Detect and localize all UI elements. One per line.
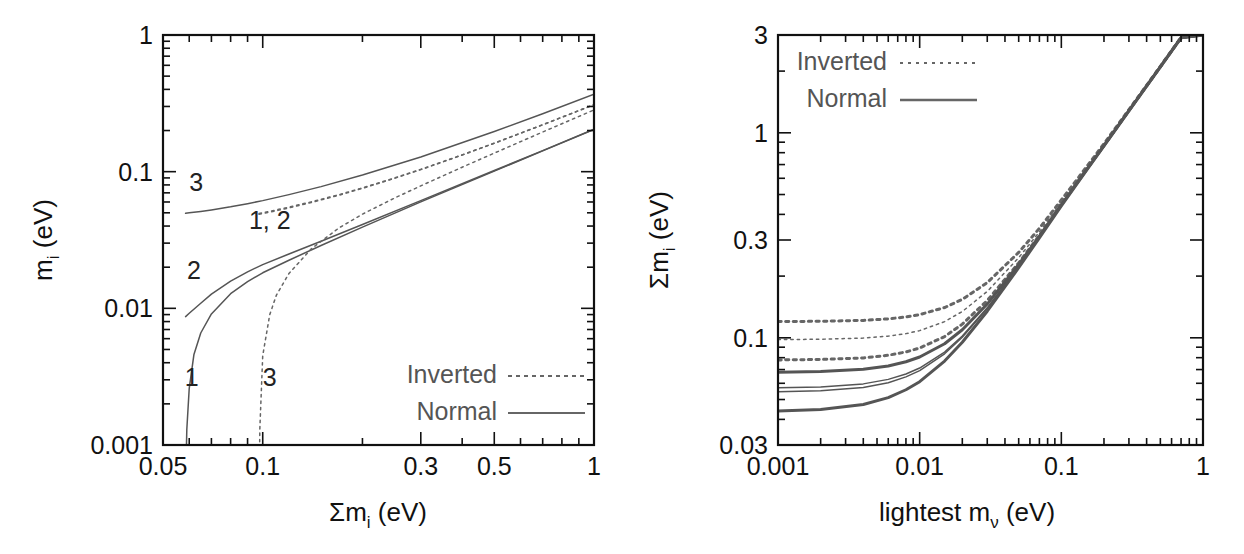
left-x-axis-title-unit: (eV): [371, 497, 427, 527]
right-y-axis-title-main: Σm: [644, 251, 674, 289]
curve-annotation: 1, 2: [249, 206, 291, 234]
curve-annotation: 1: [185, 363, 199, 391]
curve-normal-m2: [186, 129, 594, 316]
right-y-axis-title-unit: (eV): [644, 191, 674, 247]
y-tick-label: 0.3: [733, 226, 768, 254]
right-plot-svg: 0.0010.010.110.030.10.313 Inverted Norma…: [622, 0, 1244, 554]
curve-annotation: 2: [187, 256, 201, 284]
left-x-axis-title: Σmi (eV): [329, 497, 427, 532]
left-y-axis-title-unit: (eV): [28, 199, 58, 255]
left-plot-panel: 0.050.10.30.510.0010.010.11 31, 2213 Inv…: [0, 0, 622, 554]
y-tick-label: 1: [139, 21, 153, 49]
y-tick-label: 0.01: [104, 294, 153, 322]
left-y-axis-title-main: m: [28, 259, 58, 281]
x-tick-label: 0.01: [895, 452, 944, 480]
curve-inverted-mid: [778, 35, 1203, 340]
curve-inverted-upper: [778, 35, 1203, 322]
x-tick-label: 0.3: [403, 452, 438, 480]
right-legend: Inverted Normal: [797, 47, 977, 112]
right-legend-label-inverted: Inverted: [797, 47, 887, 75]
right-x-axis-title-main: lightest m: [879, 497, 990, 527]
left-axes-frame: [163, 35, 594, 445]
x-tick-label: 1: [1196, 452, 1210, 480]
left-x-axis-title-main: Σm: [329, 497, 367, 527]
y-tick-label: 1: [754, 119, 768, 147]
y-tick-label: 3: [754, 21, 768, 49]
x-tick-label: 0.1: [245, 452, 280, 480]
right-x-axis-title: lightest mν (eV): [879, 497, 1055, 532]
x-tick-label: 0.1: [1044, 452, 1079, 480]
y-tick-label: 0.001: [90, 431, 153, 459]
plot-frame: [163, 35, 594, 445]
curve-annotation: 3: [263, 363, 277, 391]
curve-inverted-m2: [259, 105, 594, 214]
left-plot-svg: 0.050.10.30.510.0010.010.11 31, 2213 Inv…: [0, 0, 622, 554]
left-legend-label-inverted: Inverted: [407, 360, 497, 388]
x-tick-label: 1: [587, 452, 601, 480]
right-x-axis-title-sub: ν: [990, 513, 999, 532]
right-x-axis-title-unit: (eV): [999, 497, 1055, 527]
y-tick-label: 0.1: [733, 324, 768, 352]
neutrino-mass-figure: 0.050.10.30.510.0010.010.11 31, 2213 Inv…: [0, 0, 1244, 554]
curve-annotation: 3: [189, 168, 203, 196]
left-legend: Inverted Normal: [407, 360, 585, 425]
y-tick-label: 0.1: [118, 158, 153, 186]
left-curve-annotations: 31, 2213: [185, 168, 291, 391]
left-legend-label-normal: Normal: [416, 397, 497, 425]
left-y-axis-title: mi (eV): [28, 199, 63, 281]
right-plot-panel: 0.0010.010.110.030.10.313 Inverted Norma…: [622, 0, 1244, 554]
curve-normal-m1: [186, 129, 594, 486]
right-legend-label-normal: Normal: [806, 84, 887, 112]
right-y-axis-title: Σmi (eV): [644, 191, 679, 289]
x-tick-label: 0.5: [477, 452, 512, 480]
curve-normal-m3: [186, 94, 594, 213]
y-tick-label: 0.03: [719, 431, 768, 459]
